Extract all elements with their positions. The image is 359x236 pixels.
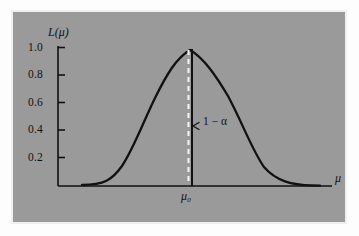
y-tick-label-0-4: 0.4 — [28, 124, 43, 136]
y-axis-title: L(μ) — [48, 26, 69, 38]
likelihood-curve — [82, 50, 320, 186]
x-axis-title: μ — [335, 172, 341, 184]
confidence-annotation: 1 − α — [203, 116, 227, 128]
y-tick-label-0-2: 0.2 — [28, 152, 43, 164]
figure-container: L(μ) 1.0 0.8 0.6 0.4 0.2 μ μ₀ 1 − α — [0, 0, 359, 236]
confidence-leader-tick — [193, 123, 199, 130]
y-tick-label-1-0: 1.0 — [28, 42, 43, 54]
y-tick-label-0-6: 0.6 — [28, 97, 43, 109]
x-tick-label-mu0: μ₀ — [181, 190, 191, 202]
y-tick-label-0-8: 0.8 — [28, 69, 43, 81]
